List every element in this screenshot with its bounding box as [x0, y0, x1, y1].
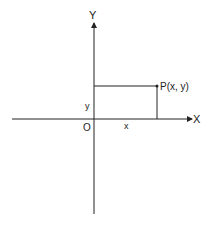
coordinate-diagram: Y X O P(x, y) y x [0, 0, 211, 226]
x-projection-label: x [124, 121, 129, 131]
point-label: P(x, y) [160, 81, 189, 92]
point-p [156, 85, 159, 88]
y-axis-label: Y [89, 9, 97, 21]
x-axis-label: X [193, 113, 201, 125]
y-projection-label: y [85, 101, 90, 111]
origin-label: O [83, 122, 91, 133]
